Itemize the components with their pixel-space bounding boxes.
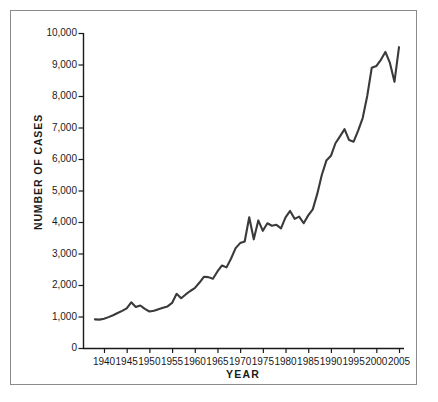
y-axis-ticks <box>79 34 84 349</box>
axis-lines <box>83 33 404 349</box>
chart-figure: NUMBER OF CASES 10,0009,0008,0007,0006,0… <box>0 0 438 402</box>
line-chart-plot <box>0 0 438 402</box>
x-axis-title: YEAR <box>83 368 403 380</box>
data-series-line <box>95 47 399 319</box>
